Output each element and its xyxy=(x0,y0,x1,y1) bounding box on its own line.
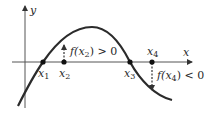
point-x3 xyxy=(127,59,132,64)
label-x1: x1 xyxy=(38,67,49,81)
label-x4: x4 xyxy=(147,45,158,59)
y-axis-label: y xyxy=(29,4,37,17)
label-x2: x2 xyxy=(59,67,70,81)
annotation-f-x2-positive: f(x2) > 0 xyxy=(69,45,117,59)
x-axis-label: x xyxy=(183,46,190,59)
function-sign-diagram: y x x1 x2 x3 x4 f(x2) > 0 f(x4) < 0 xyxy=(0,0,211,117)
point-x4 xyxy=(149,59,154,64)
point-x2 xyxy=(61,59,66,64)
annotation-f-x4-negative: f(x4) < 0 xyxy=(156,69,204,83)
point-x1 xyxy=(40,59,45,64)
